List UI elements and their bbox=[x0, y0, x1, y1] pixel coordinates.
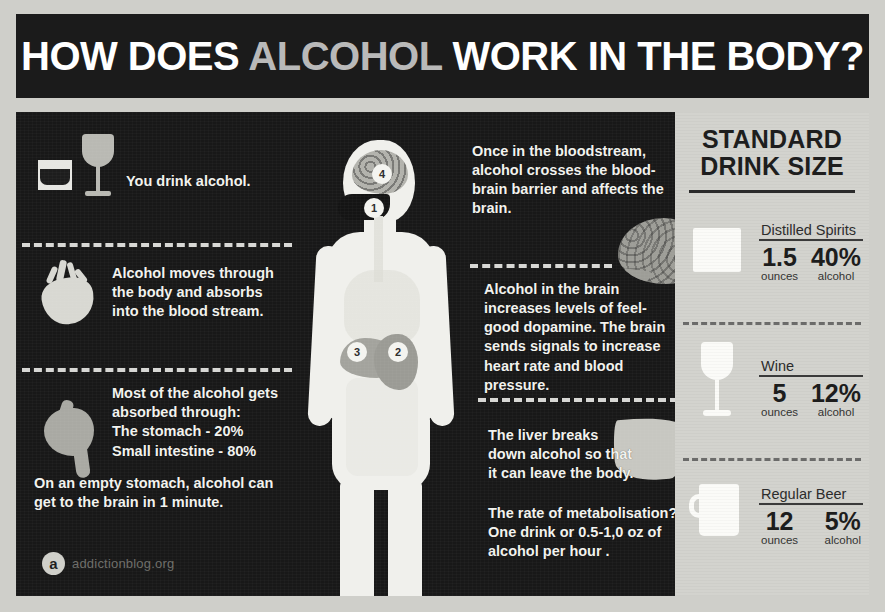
beer-mug-body bbox=[699, 484, 739, 536]
drink-abv: 40% alcohol bbox=[811, 244, 861, 282]
drink-abv-unit: alcohol bbox=[825, 534, 861, 546]
right-step-3-text: The liver breaks down alcohol so that it… bbox=[488, 426, 638, 483]
panel-title: STANDARD DRINK SIZE bbox=[675, 126, 869, 180]
title-bar: HOW DOES ALCOHOL WORK IN THE BODY? bbox=[16, 14, 869, 98]
body-marker-4: 4 bbox=[372, 164, 392, 184]
drink-amount-value: 12 bbox=[761, 508, 798, 534]
logo-text: addictionblog.org bbox=[72, 556, 174, 571]
panel-title-line-1: STANDARD bbox=[675, 126, 869, 153]
left-step-3-bullet-2: Small intestine - 80% bbox=[112, 442, 292, 461]
panel-title-rule bbox=[689, 190, 855, 193]
right-step-2-text: Alcohol in the brain increases levels of… bbox=[484, 280, 674, 395]
drink-row-regular-beer: Regular Beer 12 ounces 5% alcohol bbox=[675, 482, 869, 582]
divider-right-2 bbox=[478, 398, 690, 402]
body-marker-3: 3 bbox=[347, 342, 367, 362]
right-text-column: Once in the bloodstream, alcohol crosses… bbox=[466, 112, 691, 596]
title-part-2: WORK IN THE BODY? bbox=[442, 34, 864, 78]
drink-abv-unit: alcohol bbox=[811, 406, 861, 418]
drink-abv-value: 40% bbox=[811, 244, 861, 270]
wine-glass-icon bbox=[691, 340, 743, 426]
drink-amount: 5 ounces bbox=[761, 380, 798, 418]
drink-abv-unit: alcohol bbox=[811, 270, 861, 282]
drink-row-wine: Wine 5 ounces 12% alcohol bbox=[675, 340, 869, 444]
drink-info-wine: Wine 5 ounces 12% alcohol bbox=[759, 358, 863, 418]
divider-right-1 bbox=[470, 264, 612, 268]
right-step-1-text: Once in the bloodstream, alcohol crosses… bbox=[472, 142, 688, 219]
wine-glass-bowl bbox=[82, 134, 114, 167]
beer-mug-icon bbox=[689, 484, 747, 538]
panel-title-line-2: DRINK SIZE bbox=[675, 153, 869, 180]
drink-amount-unit: ounces bbox=[761, 406, 798, 418]
drink-amount-unit: ounces bbox=[761, 270, 798, 282]
wine-glass-stem bbox=[96, 165, 100, 192]
left-step-3-bullet-1: The stomach - 20% bbox=[112, 422, 292, 441]
drink-info-distilled-spirits: Distilled Spirits 1.5 ounces 40% alcohol bbox=[759, 222, 863, 282]
left-step-2-text: Alcohol moves through the body and absor… bbox=[112, 264, 288, 321]
diagram-intestines bbox=[346, 378, 418, 476]
body-marker-1: 1 bbox=[364, 198, 384, 218]
drink-figures: 12 ounces 5% alcohol bbox=[759, 505, 863, 546]
divider-left-1 bbox=[22, 243, 292, 247]
silhouette-left-leg bbox=[340, 476, 374, 596]
drink-figures: 5 ounces 12% alcohol bbox=[759, 377, 863, 418]
wine-glass-stem bbox=[715, 378, 719, 412]
standard-drink-size-panel: STANDARD DRINK SIZE Distilled Spirits 1.… bbox=[675, 112, 869, 596]
drink-info-regular-beer: Regular Beer 12 ounces 5% alcohol bbox=[759, 486, 863, 546]
wine-glass-foot bbox=[85, 191, 111, 196]
drink-row-distilled-spirits: Distilled Spirits 1.5 ounces 40% alcohol bbox=[675, 222, 869, 318]
title-part-1: HOW DOES bbox=[21, 34, 248, 78]
drink-name: Wine bbox=[759, 358, 863, 374]
wine-glass-icon bbox=[78, 134, 118, 198]
body-diagram-column: 4 1 3 2 bbox=[296, 112, 466, 596]
drink-amount-value: 5 bbox=[761, 380, 798, 406]
divider-panel-1 bbox=[683, 322, 861, 325]
shot-glass-liquid bbox=[40, 169, 70, 185]
drink-amount-value: 1.5 bbox=[761, 244, 798, 270]
left-step-1-text: You drink alcohol. bbox=[126, 172, 286, 191]
drink-amount-unit: ounces bbox=[761, 534, 798, 546]
wine-glass-foot bbox=[703, 410, 731, 416]
human-body-silhouette: 4 1 3 2 bbox=[296, 120, 466, 596]
left-step-3-heading: Most of the alcohol gets absorbed throug… bbox=[112, 384, 292, 422]
drink-abv-value: 12% bbox=[811, 380, 861, 406]
left-step-3-footnote: On an empty stomach, alcohol can get to … bbox=[34, 474, 286, 512]
wine-glass-bowl bbox=[701, 342, 733, 380]
drink-abv: 12% alcohol bbox=[811, 380, 861, 418]
divider-panel-2 bbox=[683, 458, 861, 461]
heart-icon bbox=[38, 260, 102, 326]
stomach-icon bbox=[44, 400, 110, 480]
drink-abv-value: 5% bbox=[825, 508, 861, 534]
left-column: You drink alcohol. Alcohol moves through… bbox=[16, 112, 296, 596]
drink-name: Regular Beer bbox=[759, 486, 863, 502]
title-accent-word: ALCOHOL bbox=[248, 34, 442, 78]
shot-glass-icon bbox=[693, 228, 741, 272]
drink-amount: 12 ounces bbox=[761, 508, 798, 546]
silhouette-right-leg bbox=[388, 476, 422, 596]
drink-figures: 1.5 ounces 40% alcohol bbox=[759, 241, 863, 282]
infographic-poster: HOW DOES ALCOHOL WORK IN THE BODY? You d… bbox=[0, 0, 885, 612]
diagram-lungs bbox=[344, 270, 420, 344]
drink-abv: 5% alcohol bbox=[825, 508, 861, 546]
drink-amount: 1.5 ounces bbox=[761, 244, 798, 282]
divider-left-2 bbox=[22, 368, 292, 372]
site-logo[interactable]: a addictionblog.org bbox=[42, 552, 174, 575]
shot-glass-icon bbox=[38, 160, 72, 190]
page-title: HOW DOES ALCOHOL WORK IN THE BODY? bbox=[21, 34, 864, 79]
logo-badge-icon: a bbox=[42, 552, 65, 575]
drink-name: Distilled Spirits bbox=[759, 222, 863, 238]
body-marker-2: 2 bbox=[388, 342, 408, 362]
right-step-4-text: The rate of metabolisation? One drink or… bbox=[488, 504, 688, 561]
